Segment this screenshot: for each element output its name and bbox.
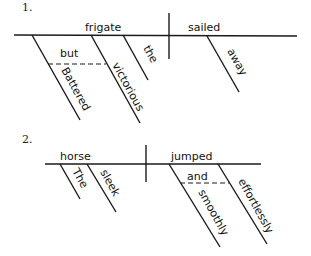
verb-word: jumped (170, 150, 212, 163)
modifier-word: The (69, 165, 91, 190)
conjunction-word: and (187, 170, 208, 183)
modifier-word: smoothly (195, 187, 231, 238)
diagram-1: 1. frigate sailed but Battered victoriou… (14, 1, 297, 123)
verb-word: sailed (188, 21, 220, 34)
baseline (14, 35, 297, 36)
modifier-word: Battered (58, 65, 93, 113)
conjunction-word: but (60, 47, 79, 60)
modifier-line-victorious (91, 35, 140, 123)
diagram-number: 1. (22, 1, 33, 14)
sentence-diagrams: 1. frigate sailed but Battered victoriou… (0, 0, 311, 256)
modifier-word: the (140, 43, 160, 65)
diagram-number: 2. (22, 133, 33, 146)
subject-word: horse (60, 150, 91, 163)
modifier-word: sleek (97, 167, 123, 199)
subject-word: frigate (85, 21, 121, 34)
diagram-2: 2. horse jumped The sleek and smoothly e… (22, 133, 276, 247)
